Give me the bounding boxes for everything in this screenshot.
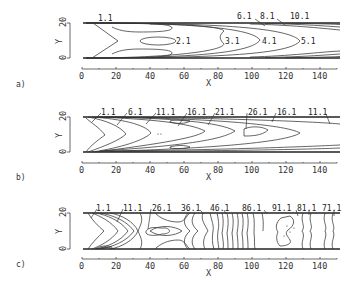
x-tick-140: 140 xyxy=(312,165,327,175)
contour-label: 10.1 xyxy=(290,12,309,21)
y-tick-20: 20 xyxy=(58,17,68,27)
contour-label: 86.1 xyxy=(242,204,261,213)
contour-label: 26.1 xyxy=(152,204,171,213)
y-tick-20: 20 xyxy=(58,111,68,121)
contour-label: 91.1 xyxy=(272,204,291,213)
contour-label: 4.1 xyxy=(262,37,277,46)
y-axis-label: Y xyxy=(54,229,64,234)
panel-tag-b: b) xyxy=(16,173,26,182)
x-tick-140: 140 xyxy=(312,71,327,81)
x-tick-80: 80 xyxy=(213,71,223,81)
contour-label: 71.1 xyxy=(322,204,341,213)
x-tick-120: 120 xyxy=(278,165,293,175)
x-axis-label: X xyxy=(206,172,212,182)
contour-label: 46.1 xyxy=(210,204,229,213)
y-tick-0: 0 xyxy=(58,149,68,154)
x-tick-100: 100 xyxy=(244,165,259,175)
x-tick-0: 0 xyxy=(79,165,84,175)
y-axis-label: Y xyxy=(54,39,64,44)
x-tick-0: 0 xyxy=(79,261,84,271)
x-tick-80: 80 xyxy=(213,165,223,175)
contour-label: 8.1 xyxy=(260,12,275,21)
contour-label: 3.1 xyxy=(225,37,240,46)
contour-figure: 20 0 Y 0 20 40 60 80 100 120 140 X xyxy=(0,0,353,282)
panel-tag-a: a) xyxy=(16,80,26,89)
y-tick-0: 0 xyxy=(58,246,68,251)
x-tick-20: 20 xyxy=(111,71,121,81)
panel-tag-c: c) xyxy=(16,260,26,269)
x-tick-80: 80 xyxy=(213,261,223,271)
contour-label: 1.1 xyxy=(96,204,111,213)
contour-label: 1.1 xyxy=(101,108,116,117)
x-axis-label: X xyxy=(206,268,212,278)
contour-label: 26.1 xyxy=(248,108,267,117)
contour-label: 81.1 xyxy=(297,204,316,213)
x-tick-60: 60 xyxy=(179,165,189,175)
contour-label: 5.1 xyxy=(301,37,316,46)
contour-label: 6.1 xyxy=(237,12,252,21)
x-tick-40: 40 xyxy=(145,71,155,81)
y-tick-20: 20 xyxy=(58,207,68,217)
panel-b: 20 0 Y 0 20 40 60 80 100 120 140 X xyxy=(54,108,340,182)
y-tick-0: 0 xyxy=(58,55,68,60)
x-tick-100: 100 xyxy=(244,261,259,271)
x-tick-40: 40 xyxy=(145,165,155,175)
x-tick-120: 120 xyxy=(278,71,293,81)
panel-c: 20 0 Y 0 20 40 60 80 100 120 140 X xyxy=(54,204,341,278)
y-axis-label: Y xyxy=(54,133,64,138)
x-tick-100: 100 xyxy=(244,71,259,81)
x-tick-20: 20 xyxy=(111,165,121,175)
contour-label: 21.1 xyxy=(215,108,234,117)
x-tick-40: 40 xyxy=(145,261,155,271)
x-tick-60: 60 xyxy=(179,71,189,81)
x-tick-0: 0 xyxy=(79,71,84,81)
contour-label: 11.1 xyxy=(308,108,327,117)
panel-a: 20 0 Y 0 20 40 60 80 100 120 140 X xyxy=(54,12,340,88)
x-tick-60: 60 xyxy=(179,261,189,271)
contour-label: 16.1 xyxy=(277,108,296,117)
x-tick-20: 20 xyxy=(111,261,121,271)
contour-label: 1.1 xyxy=(98,14,113,23)
x-axis-label: X xyxy=(206,78,212,88)
contour-label: 11.1 xyxy=(123,204,142,213)
contour-label: 36.1 xyxy=(181,204,200,213)
contour-label: 6.1 xyxy=(128,108,143,117)
x-tick-120: 120 xyxy=(278,261,293,271)
contour-label: 2.1 xyxy=(176,37,191,46)
contour-label: 16.1 xyxy=(187,108,206,117)
contour-label: 11.1 xyxy=(156,108,175,117)
x-tick-140: 140 xyxy=(312,261,327,271)
